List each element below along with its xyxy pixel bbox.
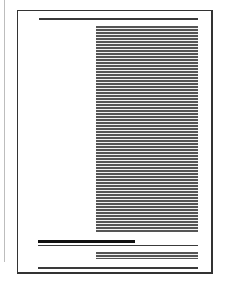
margin-guide-line [4, 0, 5, 262]
footnote-text [96, 252, 198, 259]
footer-rule [38, 267, 198, 269]
caption-heading-bar [38, 240, 135, 243]
header-rule [39, 18, 198, 20]
caption-rule [38, 245, 198, 246]
body-text-column [96, 26, 198, 232]
